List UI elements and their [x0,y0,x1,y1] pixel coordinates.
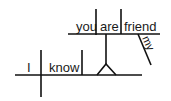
main-subject: I [27,60,31,75]
clause-subject: you [76,19,97,34]
sentence-diagram: you are friend my I know [0,0,171,101]
clause-verb: are [100,19,119,34]
pedestal-base [97,64,116,75]
main-verb: know [49,60,80,75]
clause-predicate-nominative: friend [124,19,157,34]
main-clause: I know [15,50,142,97]
pedestal [97,34,116,75]
clause-modifier: my [140,34,157,53]
